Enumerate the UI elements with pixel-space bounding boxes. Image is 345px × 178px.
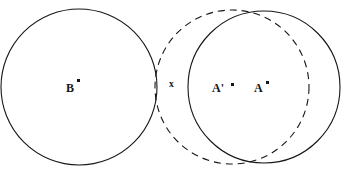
figure-canvas: B x A' A [0, 0, 345, 178]
circle-b-outline [1, 9, 157, 165]
circle-a-prime-outline-dashed [155, 10, 309, 164]
circles-diagram [0, 0, 345, 178]
circle-a-outline [188, 11, 340, 163]
